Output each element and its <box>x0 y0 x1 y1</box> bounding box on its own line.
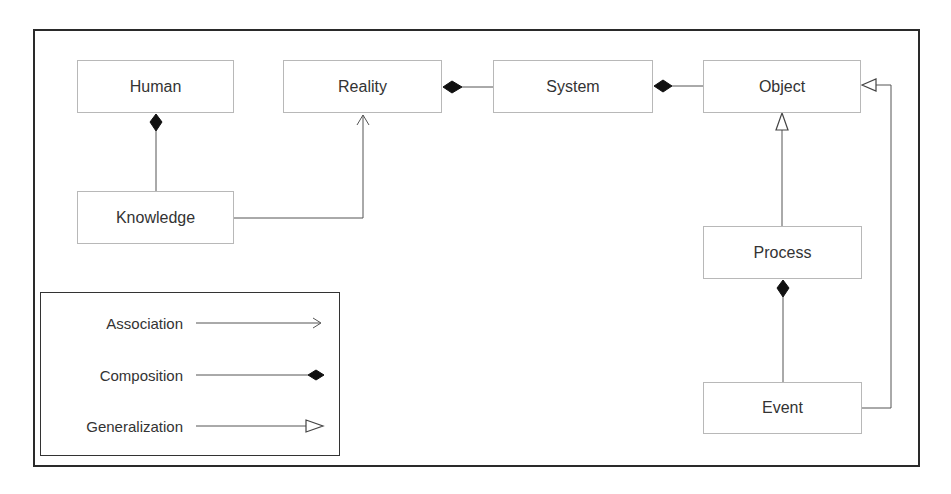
generalization-triangle-object-right <box>862 79 876 91</box>
node-system: System <box>493 60 653 113</box>
generalization-triangle-object-bottom <box>776 113 788 130</box>
node-reality: Reality <box>283 60 442 113</box>
node-human: Human <box>77 60 234 113</box>
node-knowledge: Knowledge <box>77 191 234 244</box>
legend: Association Composition Generalization <box>40 292 340 456</box>
node-event: Event <box>703 382 862 434</box>
composition-diamond-reality <box>443 81 462 93</box>
legend-composition-label: Composition <box>100 367 183 384</box>
composition-diamond-process <box>777 280 789 297</box>
node-process: Process <box>703 226 862 279</box>
legend-association-label: Association <box>106 315 183 332</box>
composition-diamond-system <box>654 80 672 92</box>
legend-generalization-label: Generalization <box>86 418 183 435</box>
composition-diamond-human <box>150 114 162 131</box>
node-object: Object <box>703 60 861 113</box>
